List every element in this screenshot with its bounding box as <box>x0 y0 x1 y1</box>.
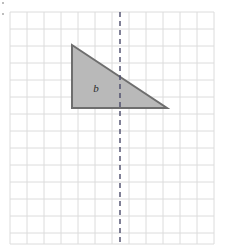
triangle-label: b <box>93 82 99 94</box>
corner-tick-left-upper <box>2 13 4 15</box>
diagram-canvas: b <box>0 0 232 251</box>
corner-tick-top-left <box>2 2 4 4</box>
figure-root: b <box>0 0 232 251</box>
